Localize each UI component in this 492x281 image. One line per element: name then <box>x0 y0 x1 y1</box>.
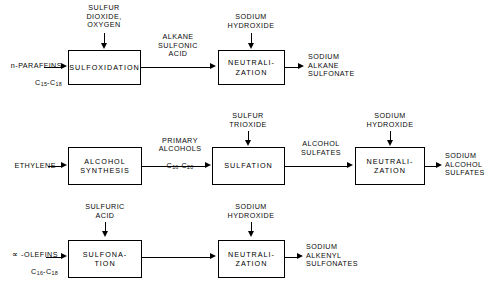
row1-product-arrowhead <box>298 63 304 69</box>
row1-reagent2-arrowhead <box>248 43 254 49</box>
row2-intermediate1-arrowhead <box>205 162 211 168</box>
row2-reagent-sodium-hydroxide-label: SODIUM HYDROXIDE <box>350 112 430 129</box>
row3-feedstock-label: ∝ -OLEFINS C16-C18 <box>0 242 58 278</box>
row3-reagent-sulfuric-acid-label: SULFURIC ACID <box>68 203 142 220</box>
row1-feed-line <box>44 67 62 68</box>
row3-feed-line <box>46 257 62 258</box>
row1-intermediate-line <box>141 67 211 68</box>
row2-product-arrowhead <box>436 162 442 168</box>
row3-product-sodium-alkenyl-sulfonates-label: SODIUM ALKENYL SULFONATES <box>306 243 402 269</box>
row1-reagent-sodium-hydroxide-label: SODIUM HYDROXIDE <box>212 13 290 30</box>
unit-neutralization-row3[interactable]: NEUTRALI- ZATION <box>218 240 285 278</box>
row1-feedstock-carbon-range: C15-C18 <box>35 78 62 87</box>
unit-neutralization-row2[interactable]: NEUTRALI- ZATION <box>355 147 425 185</box>
row2-product-sodium-alcohol-sulfates-label: SODIUM ALCOHOL SULFATES <box>445 152 492 178</box>
row2-feed-line <box>48 166 62 167</box>
row1-feedstock-name: n-PARAFFINS <box>11 61 62 70</box>
row3-intermediate-arrowhead <box>210 253 216 259</box>
unit-alcohol-synthesis[interactable]: ALCOHOL SYNTHESIS <box>68 147 142 185</box>
row1-intermediate-arrowhead <box>210 63 216 69</box>
row1-product-line <box>285 67 299 68</box>
row1-product-sodium-alkane-sulfonate-label: SODIUM ALKANE SULFONATE <box>308 53 400 79</box>
row1-intermediate-alkane-sulfonic-acid-label: ALKANE SULFONIC ACID <box>142 33 214 59</box>
row3-feedstock-prefix: ∝ - <box>12 250 24 259</box>
row1-feed-arrowhead <box>61 63 67 69</box>
row3-feed-arrowhead <box>61 253 67 259</box>
row2-intermediate1-line <box>142 166 206 167</box>
row1-feedstock-label: n-PARAFFINS C15-C18 <box>0 53 62 89</box>
row2-intermediate2-arrowhead <box>347 162 353 168</box>
row2-intermediate1-name: PRIMARY ALCOHOLS <box>159 136 202 154</box>
unit-neutralization-row1[interactable]: NEUTRALI- ZATION <box>218 50 285 85</box>
row2-reagent2-arrowhead <box>387 140 393 146</box>
row2-feed-arrowhead <box>61 162 67 168</box>
row2-reagent1-arrowhead <box>245 140 251 146</box>
unit-sulfonation[interactable]: SULFONA- TION <box>68 240 142 278</box>
unit-sulfation[interactable]: SULFATION <box>212 147 285 185</box>
row3-reagent-sodium-hydroxide-label: SODIUM HYDROXIDE <box>212 203 290 220</box>
process-flow-diagram: n-PARAFFINS C15-C18 SULFUR DIOXIDE, OXYG… <box>0 0 492 281</box>
row3-feedstock-carbon-range: C16-C18 <box>31 267 58 276</box>
row1-reagent-sulfur-dioxide-oxygen-label: SULFUR DIOXIDE, OXYGEN <box>62 4 146 30</box>
unit-sulfoxidation[interactable]: SULFOXIDATION <box>68 50 141 85</box>
row2-reagent-sulfur-trioxide-label: SULFUR TRIOXIDE <box>212 112 284 129</box>
row2-intermediate2-line <box>285 166 348 167</box>
row2-intermediate2-alcohol-sulfates-label: ALCOHOL SULFATES <box>288 140 354 157</box>
row1-reagent1-arrowhead <box>101 43 107 49</box>
row3-product-arrowhead <box>297 253 303 259</box>
row3-reagent1-arrowhead <box>102 231 108 237</box>
row3-reagent2-arrowhead <box>248 231 254 237</box>
row3-intermediate-line <box>142 257 212 258</box>
